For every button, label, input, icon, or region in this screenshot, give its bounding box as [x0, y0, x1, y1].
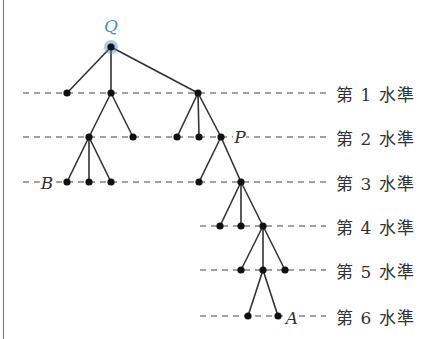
edge [198, 93, 199, 137]
tree-edges [67, 47, 285, 316]
tree-node-a2 [107, 89, 114, 96]
tree-node-b3 [173, 133, 180, 140]
edge [263, 270, 278, 316]
node-label-a: A [285, 310, 299, 327]
level-label-3: 第 3 水準 [336, 170, 415, 195]
tree-node-c4 [195, 178, 202, 185]
edge [241, 226, 263, 270]
edge [241, 182, 263, 226]
tree-node-a [274, 312, 281, 319]
tree-node-a1 [63, 89, 70, 96]
tree-node-b4 [195, 133, 202, 140]
tree-node-c5 [237, 178, 244, 185]
node-label-q: Q [103, 18, 119, 35]
edge [220, 182, 241, 226]
edge [199, 137, 221, 182]
edge [248, 270, 263, 316]
level-label-4: 第 4 水準 [336, 214, 415, 239]
level-label-1: 第 1 水準 [336, 81, 415, 106]
edge [198, 93, 221, 137]
node-label-b: B [40, 175, 55, 192]
edge [111, 93, 133, 137]
edge [177, 93, 198, 137]
tree-node-a3 [194, 89, 201, 96]
tree-node-f1 [244, 312, 251, 319]
tree-node-c3 [107, 178, 114, 185]
level-dashed-lines [23, 93, 326, 316]
tree-node-b2 [129, 133, 136, 140]
tree-node-c2 [85, 178, 92, 185]
tree-node-b [63, 178, 70, 185]
edge [67, 47, 111, 93]
tree-node-e1 [237, 266, 244, 273]
edge [89, 137, 111, 182]
edge [263, 226, 285, 270]
tree-node-d1 [216, 222, 223, 229]
tree-node-p [217, 133, 224, 140]
tree-node-e3 [281, 266, 288, 273]
level-label-5: 第 5 水準 [336, 258, 415, 283]
level-label-2: 第 2 水準 [336, 125, 415, 150]
edge [67, 137, 89, 182]
level-label-6: 第 6 水準 [336, 304, 415, 329]
tree-node-q [107, 43, 114, 50]
tree-node-d3 [259, 222, 266, 229]
tree-node-e2 [259, 266, 266, 273]
tree-node-d2 [237, 222, 244, 229]
edge [89, 93, 111, 137]
edge [111, 47, 198, 93]
tree-node-b1 [85, 133, 92, 140]
node-label-p: P [233, 129, 246, 146]
